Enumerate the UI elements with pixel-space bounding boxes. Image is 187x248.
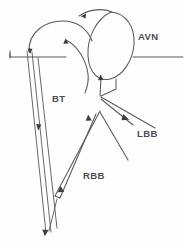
rbb-arrowhead-up-upper — [86, 115, 92, 121]
label-bt: BT — [52, 93, 65, 104]
label-avn: AVN — [138, 31, 159, 42]
inner-loop-arc — [66, 40, 88, 93]
diagram-canvas: AVN BT LBB RBB — [0, 0, 187, 248]
left-atrial-loop-arc — [29, 21, 92, 52]
his-bundle-line — [100, 78, 101, 96]
conduction-diagram-svg: AVN BT LBB RBB — [0, 0, 187, 248]
bypass-tract-strand-middle — [32, 52, 51, 232]
lbb-arrowhead-down-right — [121, 114, 129, 120]
rbb-line-ascending-outer — [55, 111, 100, 196]
lbb-line-upper — [101, 97, 155, 128]
label-lbb: LBB — [137, 128, 158, 139]
bypass-tract-terminal-arrowhead-down — [42, 230, 48, 237]
bypass-tract-strand-outer — [27, 51, 46, 233]
rbb-line-ascending-inner — [60, 114, 96, 198]
label-rbb: RBB — [83, 170, 105, 181]
avn-lower-connector — [101, 79, 116, 96]
left-atrial-line — [10, 54, 66, 58]
rbb-lower-return — [55, 196, 60, 198]
avn-circle-outline — [88, 12, 134, 80]
